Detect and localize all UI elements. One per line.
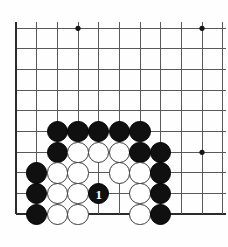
white-stone[interactable] xyxy=(47,162,68,183)
white-stone[interactable] xyxy=(129,204,150,225)
star-point xyxy=(75,26,80,31)
white-stone[interactable] xyxy=(129,162,150,183)
black-stone[interactable] xyxy=(150,204,171,225)
white-stone[interactable] xyxy=(67,204,88,225)
white-stone[interactable] xyxy=(109,162,130,183)
black-stone[interactable] xyxy=(109,121,130,142)
black-stone[interactable] xyxy=(26,204,47,225)
white-stone[interactable] xyxy=(129,183,150,204)
white-stone[interactable] xyxy=(88,142,109,163)
black-stone[interactable] xyxy=(129,142,150,163)
white-stone[interactable] xyxy=(47,204,68,225)
black-stone[interactable] xyxy=(67,121,88,142)
black-stone[interactable] xyxy=(150,142,171,163)
white-stone[interactable] xyxy=(67,183,88,204)
move-number-label: 1 xyxy=(89,188,108,201)
black-stone[interactable]: 1 xyxy=(88,183,109,204)
black-stone[interactable] xyxy=(47,142,68,163)
black-stone[interactable] xyxy=(47,121,68,142)
black-stone[interactable] xyxy=(150,162,171,183)
black-stone[interactable] xyxy=(129,121,150,142)
black-stone[interactable] xyxy=(26,162,47,183)
star-point xyxy=(199,26,204,31)
white-stone[interactable] xyxy=(67,142,88,163)
go-diagram: 1 xyxy=(0,0,228,247)
white-stone[interactable] xyxy=(47,183,68,204)
white-stone[interactable] xyxy=(67,162,88,183)
star-point xyxy=(199,150,204,155)
white-stone[interactable] xyxy=(109,142,130,163)
